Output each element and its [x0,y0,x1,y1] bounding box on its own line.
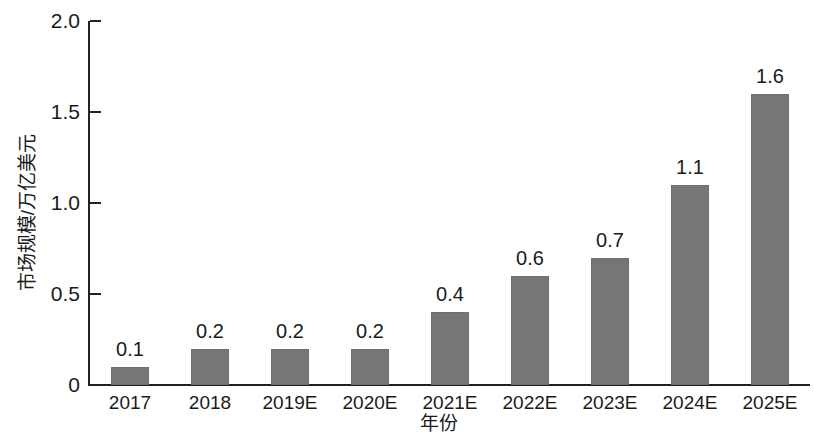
bar-chart: 市场规模/万亿美元 00.51.01.52.0 0.10.20.20.20.40… [0,0,814,438]
x-axis-title-text: 年份 [420,413,458,434]
y-axis-tick-mark [90,293,101,295]
bar-value-label: 0.2 [170,321,250,341]
y-axis-tick-label: 0 [36,374,80,395]
bar-group: 1.6 [730,21,810,385]
x-axis-tick-label: 2023E [570,392,650,415]
bar[interactable] [351,349,389,385]
bar-group: 0.1 [90,21,170,385]
x-axis-title: 年份 [0,414,814,433]
bar-value-label: 1.6 [730,66,810,86]
bar[interactable] [751,94,789,385]
plot-area: 0.10.20.20.20.40.60.71.11.6 [90,21,810,385]
bar-value-label: 0.6 [490,248,570,268]
y-axis-tick-mark [90,202,101,204]
x-axis-tick-label: 2024E [650,392,730,415]
bar[interactable] [271,349,309,385]
bar[interactable] [671,185,709,385]
bar[interactable] [111,367,149,385]
bar-value-label: 0.2 [330,321,410,341]
bar-group: 0.4 [410,21,490,385]
x-axis-tick-label: 2019E [250,392,330,415]
bar-group: 0.6 [490,21,570,385]
y-axis-tick-labels: 00.51.01.52.0 [32,0,80,438]
bar-value-label: 0.7 [570,230,650,250]
y-axis-tick-label: 1.0 [36,192,80,213]
y-axis-tick-mark [90,20,101,22]
bar-value-label: 1.1 [650,157,730,177]
y-axis-tick-label: 1.5 [36,101,80,122]
bar-group: 1.1 [650,21,730,385]
bar-value-label: 0.4 [410,284,490,304]
bar-group: 0.2 [250,21,330,385]
y-axis-tick-mark [90,111,101,113]
bar-value-label: 0.1 [90,339,170,359]
bar-group: 0.7 [570,21,650,385]
bar-group: 0.2 [330,21,410,385]
x-axis-tick-label: 2025E [730,392,810,415]
x-axis-tick-label: 2022E [490,392,570,415]
bar-group: 0.2 [170,21,250,385]
x-axis-tick-label: 2020E [330,392,410,415]
bar[interactable] [511,276,549,385]
bar[interactable] [191,349,229,385]
y-axis-tick-label: 2.0 [36,10,80,31]
bar[interactable] [431,312,469,385]
x-axis-tick-label: 2018 [170,392,250,415]
x-axis-tick-label: 2021E [410,392,490,415]
bar-value-label: 0.2 [250,321,330,341]
x-axis-tick-label: 2017 [90,392,170,415]
y-axis-tick-label: 0.5 [36,283,80,304]
bar[interactable] [591,258,629,385]
